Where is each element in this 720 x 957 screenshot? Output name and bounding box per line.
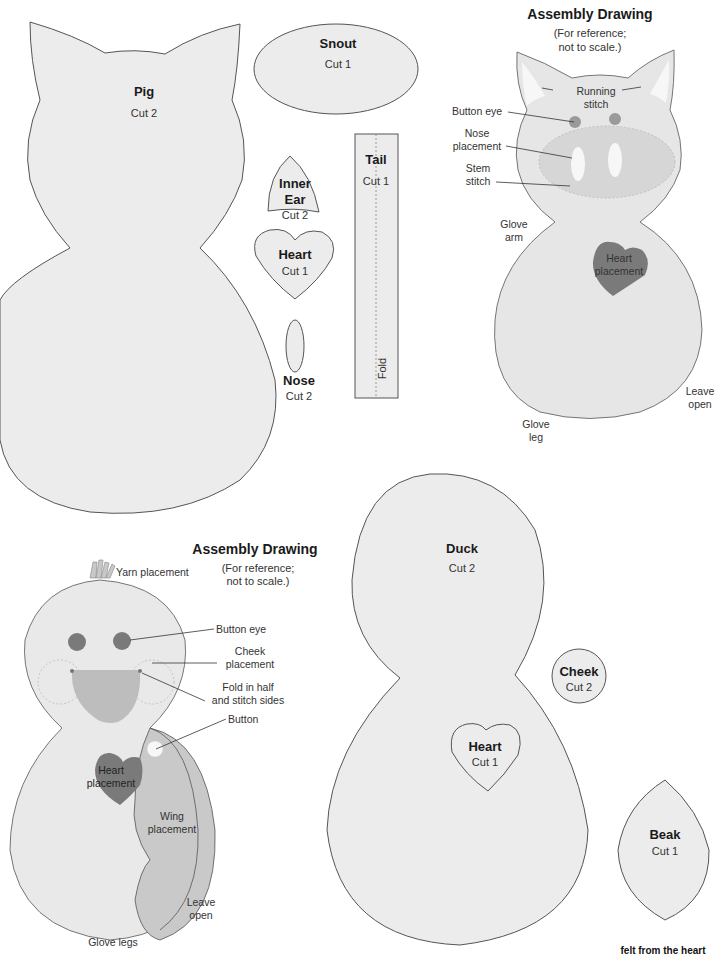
callout-wing-placement-line2: placement (142, 823, 202, 836)
callout-glove-arm-line2: arm (496, 231, 532, 244)
callout-glove-legs: Glove legs (80, 936, 146, 949)
pig-assembly-heading: Assembly Drawing (520, 6, 660, 23)
pig-heart-piece-cut: Cut 1 (272, 265, 318, 278)
pig-assembly-note-line2: not to scale.) (540, 41, 640, 54)
pig-assembly-note-line1: (For reference; (540, 27, 640, 40)
cheek-piece-cut: Cut 2 (554, 681, 604, 694)
callout-pig-leave-open-line2: open (680, 398, 720, 411)
tail-piece-cut: Cut 1 (356, 175, 396, 188)
duck-assembly-note-line2: not to scale.) (208, 575, 308, 588)
callout-cheek-placement-line1: Cheek (216, 645, 284, 658)
nose-piece-cut: Cut 2 (276, 390, 322, 403)
duck-assembly-note-line1: (For reference; (208, 562, 308, 575)
inner-ear-piece-title-line1: Inner (273, 176, 317, 192)
duck-heart-piece-title: Heart (462, 739, 508, 755)
tail-piece-title: Tail (356, 152, 396, 168)
callout-nose-placement-line1: Nose (448, 127, 506, 140)
beak-piece-cut: Cut 1 (642, 845, 688, 858)
duck-piece-cut: Cut 2 (434, 562, 490, 575)
callout-pig-heart-placement-line2: placement (590, 265, 648, 278)
snout-piece-cut: Cut 1 (310, 58, 366, 71)
inner-ear-piece-cut: Cut 2 (273, 209, 317, 222)
callout-pig-leave-open-line1: Leave (680, 385, 720, 398)
callout-button: Button (228, 713, 268, 726)
callout-glove-leg-line2: leg (518, 431, 554, 444)
callout-duck-leave-open-line1: Leave (182, 896, 220, 909)
pig-heart-piece-title: Heart (272, 247, 318, 263)
callout-yarn-placement: Yarn placement (116, 566, 202, 579)
callout-duck-button-eye: Button eye (216, 623, 276, 636)
beak-piece-title: Beak (642, 827, 688, 843)
duck-assembly-drawing (10, 560, 226, 940)
callout-cheek-placement-line2: placement (216, 658, 284, 671)
callout-running-stitch-line1: Running (570, 85, 622, 98)
callout-glove-arm-line1: Glove (496, 218, 532, 231)
snout-piece-title: Snout (310, 36, 366, 52)
duck-piece-title: Duck (440, 541, 484, 557)
duck-heart-piece-cut: Cut 1 (462, 756, 508, 769)
nose-piece-title: Nose (276, 373, 322, 389)
callout-fold-line2: and stitch sides (206, 694, 290, 707)
cheek-piece-title: Cheek (554, 664, 604, 680)
callout-glove-leg-line1: Glove (518, 418, 554, 431)
callout-wing-placement-line1: Wing (142, 810, 202, 823)
callout-duck-leave-open-line2: open (182, 909, 220, 922)
callout-running-stitch-line2: stitch (570, 98, 622, 111)
callout-pig-heart-placement-line1: Heart (590, 252, 648, 265)
pig-piece-cut: Cut 2 (118, 107, 170, 120)
callout-stem-stitch-line2: stitch (458, 175, 498, 188)
callout-duck-heart-placement-line1: Heart (82, 764, 140, 777)
nose-pattern-outline (286, 320, 304, 372)
callout-pig-button-eye: Button eye (448, 105, 506, 118)
pig-piece-title: Pig (124, 84, 164, 100)
callout-stem-stitch-line1: Stem (458, 162, 498, 175)
tail-fold-label: Fold (376, 354, 389, 384)
duck-assembly-heading: Assembly Drawing (185, 541, 325, 558)
callout-fold-line1: Fold in half (206, 681, 290, 694)
callout-duck-heart-placement-line2: placement (82, 777, 140, 790)
inner-ear-piece-title-line2: Ear (273, 192, 317, 208)
callout-nose-placement-line2: placement (448, 140, 506, 153)
footer-credit: felt from the heart (606, 945, 720, 957)
